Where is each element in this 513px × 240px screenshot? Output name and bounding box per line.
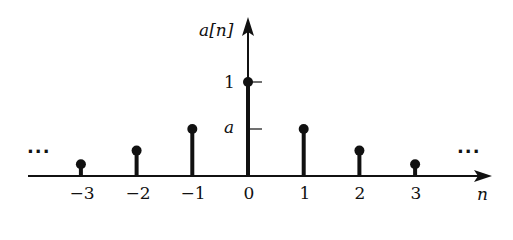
stem-marker [299, 124, 309, 134]
y-tick-label-1: 1 [224, 74, 235, 91]
stem-marker [410, 159, 420, 169]
x-tick-label: −3 [69, 185, 94, 202]
x-tick-label: −2 [125, 185, 150, 202]
stems [76, 77, 420, 176]
ellipsis-right: ··· [457, 143, 481, 161]
stem-marker [243, 77, 253, 87]
y-tick-label-a: a [224, 119, 234, 136]
x-axis-label: n [477, 186, 488, 203]
x-tick-label: 3 [411, 185, 422, 202]
stem-marker [187, 124, 197, 134]
y-axis-label: a[n] [199, 22, 233, 39]
stem-marker [132, 146, 142, 156]
x-tick-label: −1 [180, 185, 205, 202]
ellipsis-left: ··· [27, 143, 51, 161]
stem-marker [76, 159, 86, 169]
stem-marker [354, 146, 364, 156]
x-tick-label: 2 [355, 185, 366, 202]
x-tick-label: 0 [244, 185, 255, 202]
x-tick-label: 1 [300, 185, 311, 202]
